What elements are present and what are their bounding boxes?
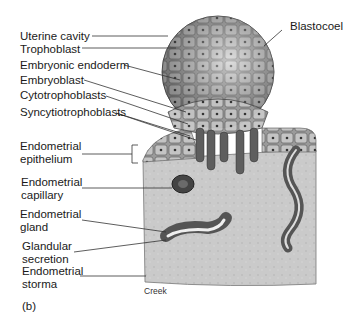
epithelium-left-shape xyxy=(143,128,200,162)
label-endometrial-epithelium: Endometrial epithelium xyxy=(20,140,81,166)
label-blastocoel: Blastocoel xyxy=(290,20,343,33)
panel-label: (b) xyxy=(22,300,36,312)
label-endometrial-capillary: Endometrial capillary xyxy=(21,176,82,202)
label-glandular-secretion: Glandular secretion xyxy=(22,240,72,266)
label-uterine-cavity: Uterine cavity xyxy=(20,30,90,43)
label-embryoblast: Embryoblast xyxy=(20,74,84,87)
label-trophoblast: Trophoblast xyxy=(20,43,80,56)
label-syncytiotrophoblasts: Syncytiotrophoblasts xyxy=(20,106,126,119)
label-endometrial-storma: Endometrial storma xyxy=(22,265,83,291)
label-cytotrophoblasts: Cytotrophoblasts xyxy=(20,89,106,102)
label-endometrial-gland: Endometrial gland xyxy=(20,208,81,234)
implantation-diagram: Uterine cavity Trophoblast Embryonic end… xyxy=(0,0,354,325)
epithelium-right-shape xyxy=(262,128,316,152)
label-embryonic-endoderm: Embryonic endoderm xyxy=(20,59,129,72)
image-credit: Creek xyxy=(144,286,167,296)
